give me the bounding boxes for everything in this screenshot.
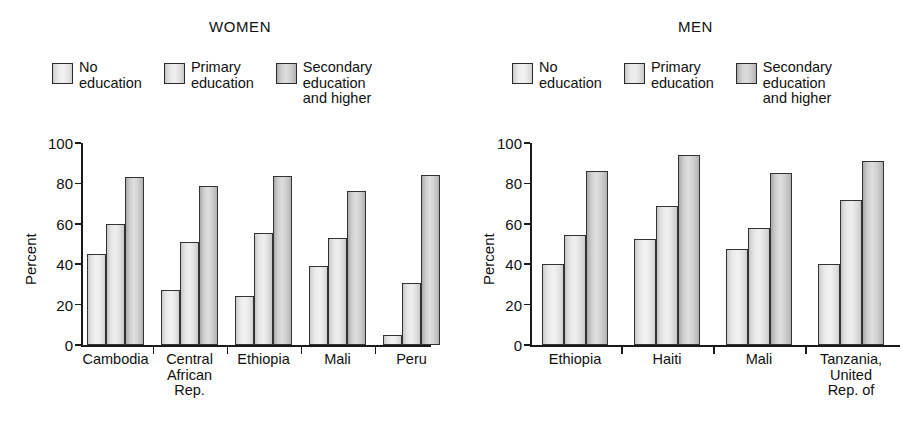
y-axis-tick <box>524 344 530 346</box>
y-axis-tick-label: 0 <box>488 337 522 354</box>
x-axis-tick <box>153 347 155 354</box>
y-axis-tick <box>524 304 530 306</box>
x-axis-tick <box>227 347 229 354</box>
y-axis-tick-label: 20 <box>488 296 522 313</box>
bar <box>678 155 700 345</box>
bar <box>309 266 328 345</box>
bar <box>840 200 862 345</box>
bar <box>199 186 218 345</box>
bar <box>87 254 106 345</box>
plot-area-women: Percent 020406080100CambodiaCentral Afri… <box>0 0 462 421</box>
bar <box>586 171 608 345</box>
y-axis-label-women: Percent <box>22 233 39 285</box>
bar <box>421 175 440 345</box>
y-axis-tick-label: 40 <box>39 256 73 273</box>
chart-page: WOMEN No education Primary education Sec… <box>0 0 923 421</box>
y-axis-tick-label: 0 <box>39 337 73 354</box>
y-axis-tick <box>75 223 81 225</box>
bar <box>347 191 366 345</box>
x-axis-tick <box>621 347 623 354</box>
plot-area-men: Percent 020406080100EthiopiaHaitiMaliTan… <box>462 0 923 421</box>
x-axis-group-label: Mali <box>746 352 773 368</box>
bar <box>656 206 678 345</box>
chart-panel-men: MEN No education Primary education Secon… <box>462 0 923 421</box>
x-axis-tick <box>375 347 377 354</box>
bar <box>818 264 840 345</box>
bar <box>726 249 748 345</box>
bar <box>564 235 586 345</box>
bar <box>402 283 421 345</box>
x-axis-tick <box>301 347 303 354</box>
y-axis-tick <box>75 344 81 346</box>
bar <box>542 264 564 345</box>
x-axis-group-label: Central African Rep. <box>166 352 213 399</box>
bar <box>770 173 792 345</box>
chart-panel-women: WOMEN No education Primary education Sec… <box>0 0 462 421</box>
x-axis-group-label: Ethiopia <box>549 352 601 368</box>
bar <box>180 242 199 345</box>
x-axis-tick <box>805 347 807 354</box>
x-axis-group-label: Mali <box>324 352 351 368</box>
y-axis-tick <box>524 183 530 185</box>
y-axis-line <box>81 143 83 347</box>
y-axis-tick-label: 80 <box>39 175 73 192</box>
bar <box>235 296 254 345</box>
x-axis-group-label: Tanzania, United Rep. of <box>815 352 887 399</box>
y-axis-tick <box>524 223 530 225</box>
y-axis-line <box>530 143 532 347</box>
bar <box>125 177 144 345</box>
y-axis-tick-label: 60 <box>488 215 522 232</box>
y-axis-tick-label: 80 <box>488 175 522 192</box>
bar <box>862 161 884 345</box>
x-axis-tick <box>713 347 715 354</box>
bar <box>273 176 292 345</box>
x-axis-line <box>530 345 900 347</box>
x-axis-group-label: Peru <box>396 352 427 368</box>
y-axis-tick <box>75 183 81 185</box>
bar <box>383 335 402 345</box>
bar <box>254 233 273 345</box>
y-axis-tick-label: 40 <box>488 256 522 273</box>
y-axis-tick-label: 100 <box>488 135 522 152</box>
y-axis-tick-label: 100 <box>39 135 73 152</box>
bar <box>106 224 125 345</box>
x-axis-group-label: Cambodia <box>82 352 148 368</box>
x-axis-group-label: Ethiopia <box>237 352 289 368</box>
y-axis-tick <box>75 263 81 265</box>
bar <box>161 290 180 345</box>
bar <box>748 228 770 345</box>
y-axis-tick <box>75 142 81 144</box>
y-axis-tick <box>75 304 81 306</box>
bar <box>634 239 656 345</box>
x-axis-line <box>81 345 431 347</box>
y-axis-tick <box>524 263 530 265</box>
y-axis-tick-label: 20 <box>39 296 73 313</box>
y-axis-tick-label: 60 <box>39 215 73 232</box>
y-axis-tick <box>524 142 530 144</box>
x-axis-group-label: Haiti <box>652 352 681 368</box>
bar <box>328 238 347 345</box>
